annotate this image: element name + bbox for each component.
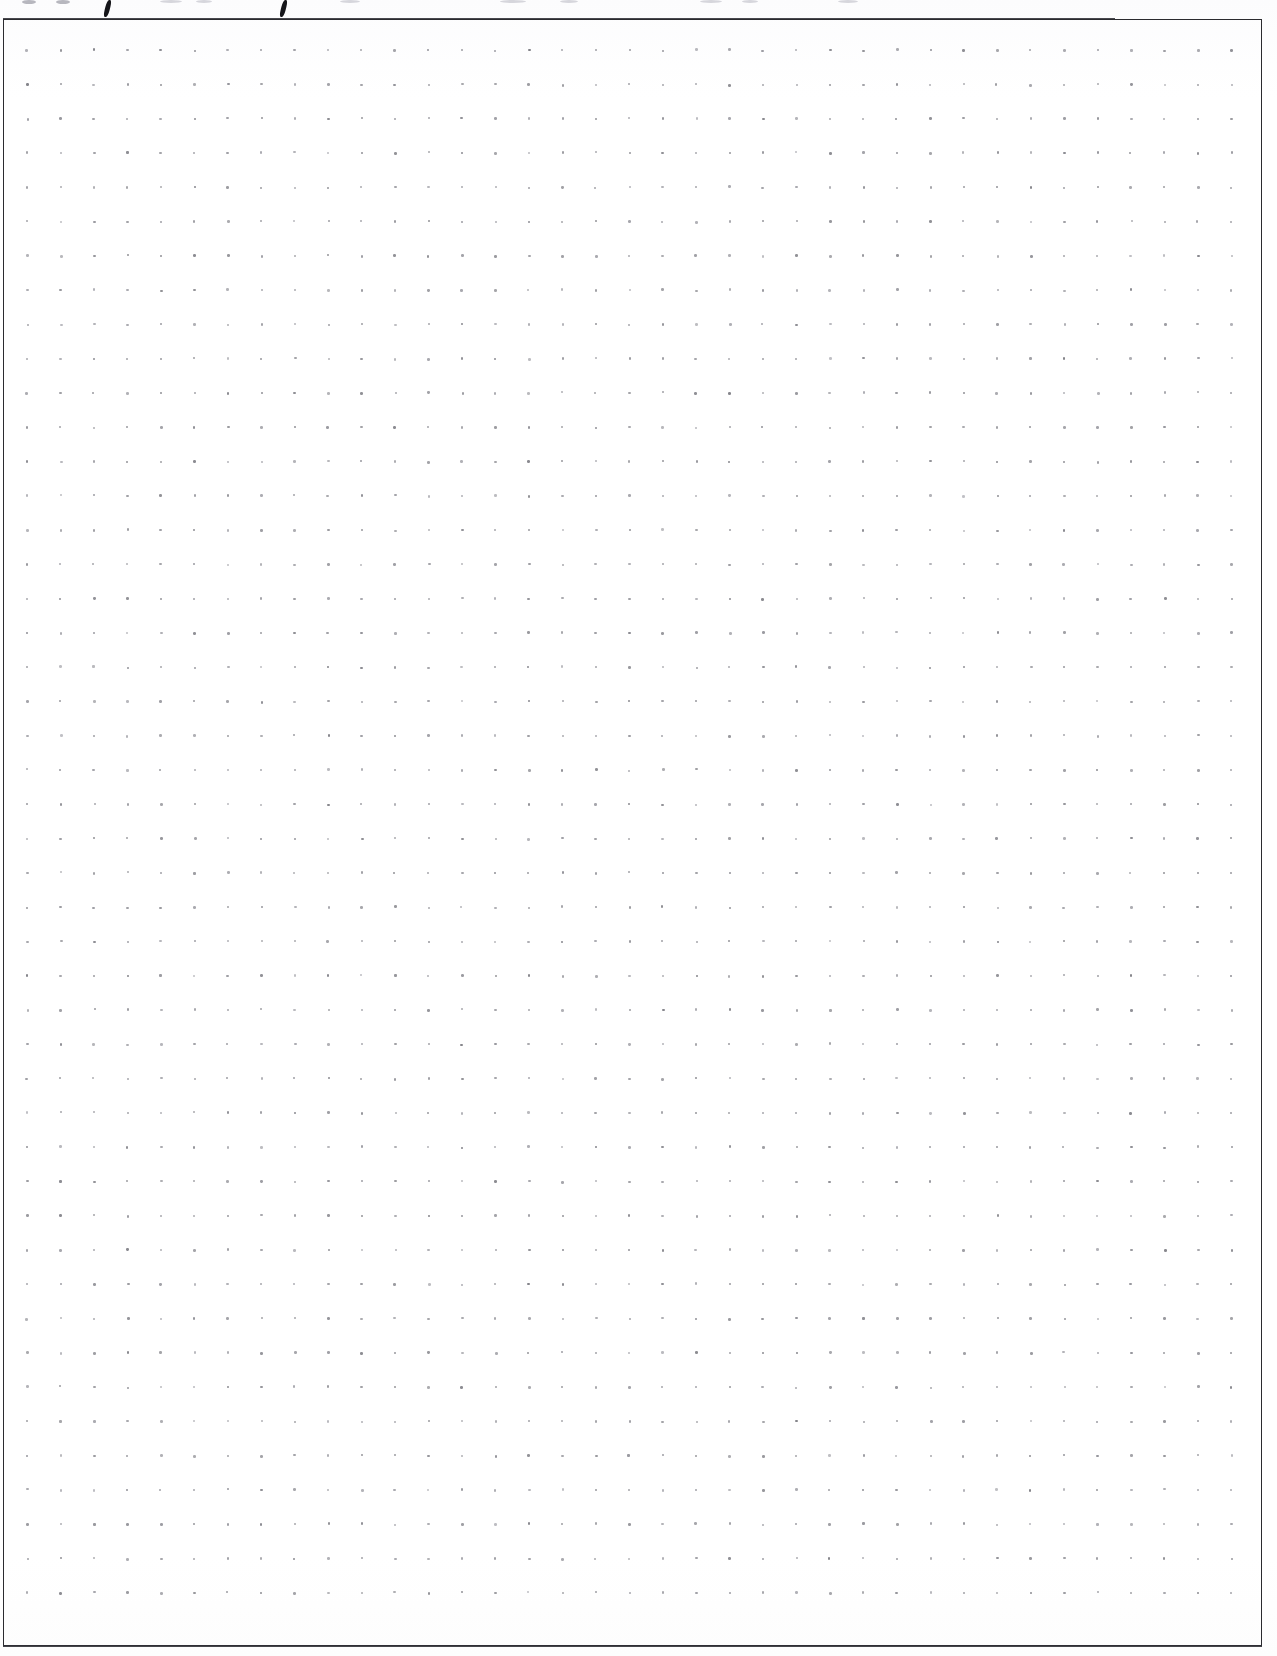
grid-dot — [260, 597, 262, 599]
grid-dot — [26, 1591, 29, 1594]
grid-dot — [661, 1215, 663, 1217]
grid-dot — [762, 1180, 764, 1182]
grid-dot — [193, 1180, 195, 1182]
grid-dot — [126, 1489, 128, 1491]
grid-dot — [527, 1283, 529, 1285]
grid-dot — [360, 220, 362, 222]
grid-dot — [461, 1523, 464, 1526]
grid-dot — [628, 1078, 631, 1081]
grid-dot — [25, 49, 28, 52]
grid-dot — [729, 1077, 731, 1079]
grid-dot — [1197, 1558, 1200, 1561]
grid-dot — [460, 289, 463, 292]
grid-dot — [896, 974, 899, 977]
grid-dot — [661, 1523, 663, 1525]
grid-dot — [427, 1146, 429, 1148]
grid-dot — [26, 563, 28, 565]
grid-dot — [795, 1420, 797, 1422]
grid-dot — [1130, 288, 1132, 290]
grid-dot — [929, 735, 932, 738]
grid-dot — [159, 907, 162, 910]
grid-dot — [796, 1146, 798, 1148]
grid-dot — [929, 357, 932, 360]
grid-dot — [126, 49, 128, 51]
grid-dot — [829, 632, 832, 635]
grid-dot — [862, 151, 864, 153]
grid-dot — [595, 460, 597, 462]
grid-dot — [829, 1351, 831, 1353]
grid-dot — [595, 701, 598, 704]
grid-dot — [160, 1523, 163, 1526]
grid-dot — [595, 1249, 597, 1251]
grid-dot — [561, 1112, 563, 1114]
grid-dot — [160, 461, 162, 463]
grid-dot — [1096, 1147, 1098, 1149]
grid-dot — [1130, 529, 1132, 531]
grid-dot — [1029, 323, 1031, 325]
grid-dot — [862, 769, 864, 771]
grid-dot — [695, 290, 697, 292]
grid-dot — [1096, 495, 1098, 497]
grid-dot — [862, 872, 864, 874]
grid-dot — [662, 1454, 664, 1456]
grid-dot — [762, 461, 764, 463]
grid-dot — [1129, 186, 1131, 188]
grid-dot — [1129, 598, 1131, 600]
grid-dot — [862, 529, 864, 531]
grid-dot — [394, 1043, 396, 1045]
grid-dot — [93, 1214, 95, 1216]
grid-dot — [594, 1112, 597, 1115]
grid-dot — [995, 1488, 998, 1491]
grid-dot — [461, 1284, 464, 1287]
grid-dot — [1030, 1352, 1033, 1355]
grid-dot — [695, 1592, 697, 1594]
grid-dot — [595, 289, 597, 291]
grid-dot — [828, 1523, 830, 1525]
grid-dot — [427, 1523, 430, 1526]
grid-dot — [1063, 769, 1066, 772]
grid-dot — [427, 1249, 429, 1251]
grid-dot — [193, 975, 195, 977]
grid-dot — [1096, 1008, 1098, 1010]
grid-dot — [1230, 906, 1233, 909]
grid-dot — [93, 358, 95, 360]
grid-dot — [26, 254, 29, 257]
grid-dot — [562, 151, 564, 153]
grid-dot — [863, 1454, 865, 1456]
grid-dot — [528, 117, 530, 119]
grid-dot — [829, 940, 832, 943]
grid-dot — [160, 1386, 162, 1388]
grid-dot — [996, 803, 998, 805]
grid-dot — [460, 1386, 463, 1389]
grid-dot — [595, 1180, 597, 1182]
grid-dot — [795, 563, 797, 565]
grid-dot — [226, 186, 229, 189]
grid-dot — [60, 1557, 62, 1559]
grid-dot — [929, 837, 932, 840]
grid-dot — [193, 1317, 196, 1320]
grid-dot — [1130, 1386, 1132, 1388]
grid-dot — [160, 598, 162, 600]
grid-dot — [394, 803, 397, 806]
grid-dot — [160, 1454, 163, 1457]
grid-dot — [828, 1181, 831, 1184]
grid-dot — [394, 220, 397, 223]
grid-dot — [1064, 1318, 1066, 1320]
handwriting-stroke — [22, 0, 36, 4]
grid-dot — [628, 494, 631, 497]
grid-dot — [93, 597, 95, 599]
grid-dot — [728, 1112, 730, 1114]
grid-dot — [962, 49, 964, 51]
grid-dot — [628, 1249, 630, 1251]
grid-dot — [695, 1146, 697, 1148]
grid-dot — [628, 975, 631, 978]
grid-dot — [562, 1318, 564, 1320]
grid-dot — [394, 701, 397, 704]
grid-dot — [662, 1489, 664, 1491]
grid-dot — [394, 598, 396, 600]
grid-dot — [227, 940, 230, 943]
grid-dot — [862, 1112, 864, 1114]
grid-dot — [1030, 1043, 1033, 1046]
grid-dot — [796, 289, 799, 292]
grid-dot — [327, 872, 329, 874]
